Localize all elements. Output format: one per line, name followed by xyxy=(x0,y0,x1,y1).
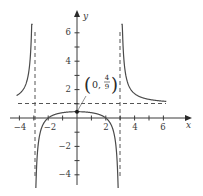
rational-function-graph: −4 −2 2 4 6 6 4 2 −2 −4 y x ( 0, 4 9 ) xyxy=(0,0,203,196)
function-curves xyxy=(17,24,167,192)
x-tick-label: −4 xyxy=(14,122,27,132)
curve-right-branch xyxy=(121,24,166,101)
x-tick-label: 4 xyxy=(132,122,137,132)
annotation-open-paren: ( xyxy=(84,74,91,95)
y-axis-arrow-icon xyxy=(74,10,80,17)
annotation-close-paren: ) xyxy=(111,74,118,95)
y-axis-label: y xyxy=(82,11,89,21)
y-tick-label: −2 xyxy=(58,141,71,151)
annotation-prefix: 0, xyxy=(92,79,101,90)
y-tick-label: −4 xyxy=(58,169,71,179)
y-tick-label: 6 xyxy=(66,27,71,37)
x-tick-label: 2 xyxy=(103,122,108,132)
x-axis-label: x xyxy=(186,120,191,130)
point-marker xyxy=(75,110,79,114)
x-tick-label: 6 xyxy=(160,122,165,132)
y-tick-label: 4 xyxy=(66,56,71,66)
x-tick-label: −2 xyxy=(44,122,57,132)
y-tick-label: 2 xyxy=(66,84,71,94)
x-tick-labels: −4 −2 2 4 6 xyxy=(14,122,166,132)
annotation-numerator: 4 xyxy=(105,74,110,82)
annotation-denominator: 9 xyxy=(105,83,109,91)
point-annotation: ( 0, 4 9 ) xyxy=(84,74,118,95)
curve-left-branch xyxy=(17,24,33,95)
asymptotes xyxy=(18,32,166,176)
